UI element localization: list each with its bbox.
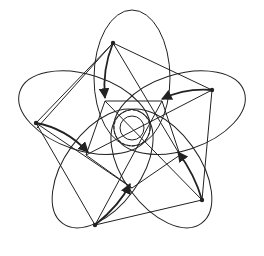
star-ellipse-diagram <box>0 0 264 256</box>
vertex-dots <box>34 41 214 227</box>
